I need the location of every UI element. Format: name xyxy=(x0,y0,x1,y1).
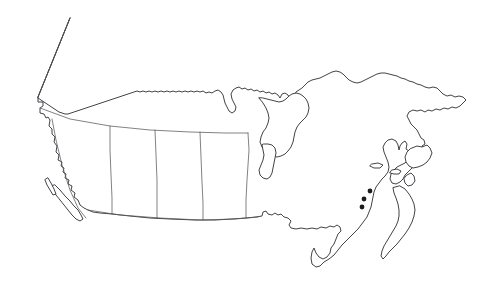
anticosti-island-outline xyxy=(370,163,383,168)
marker-dot-2 xyxy=(362,197,367,202)
nova-scotia-peninsula-outline xyxy=(381,186,415,259)
prince-edward-island-outline xyxy=(390,169,401,174)
marker-dot-1 xyxy=(368,189,373,194)
map-canvas xyxy=(0,0,494,281)
marker-dot-3 xyxy=(360,205,365,210)
yukon-alaska-boundary-line xyxy=(38,18,70,97)
canada-outline-map-svg xyxy=(0,0,494,281)
